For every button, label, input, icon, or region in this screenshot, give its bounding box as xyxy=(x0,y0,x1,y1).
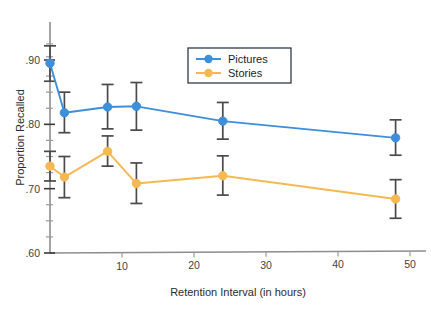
legend-label-pictures: Pictures xyxy=(228,53,268,65)
x-axis-title: Retention Interval (in hours) xyxy=(170,286,306,298)
x-tick-label: 30 xyxy=(260,259,272,271)
retention-interval-line-chart: .60.70.80.901020304050Retention Interval… xyxy=(0,0,431,321)
x-axis-line xyxy=(50,251,426,253)
data-point-stories[interactable] xyxy=(60,173,68,181)
data-point-pictures[interactable] xyxy=(46,59,54,67)
data-point-pictures[interactable] xyxy=(103,103,111,111)
y-axis-title: Proportion Recalled xyxy=(14,89,26,186)
legend-marker-pictures xyxy=(204,55,212,63)
chart-container: .60.70.80.901020304050Retention Interval… xyxy=(0,0,431,321)
legend-label-stories: Stories xyxy=(228,67,263,79)
data-point-stories[interactable] xyxy=(46,162,54,170)
chart-legend: PicturesStories xyxy=(188,48,291,83)
y-tick-label: .70 xyxy=(25,183,40,195)
y-tick-label: .90 xyxy=(25,54,40,66)
data-point-pictures[interactable] xyxy=(132,102,140,110)
y-tick-label: .60 xyxy=(25,247,40,259)
x-tick-label: 40 xyxy=(332,258,344,270)
x-tick-label: 50 xyxy=(404,258,416,270)
data-point-pictures[interactable] xyxy=(219,117,227,125)
x-tick-label: 10 xyxy=(116,260,128,272)
legend-marker-stories xyxy=(204,69,212,77)
data-point-pictures[interactable] xyxy=(60,109,68,117)
x-tick-label: 20 xyxy=(188,259,200,271)
data-point-stories[interactable] xyxy=(219,172,227,180)
data-point-stories[interactable] xyxy=(132,179,140,187)
y-tick-label: .80 xyxy=(25,118,40,130)
data-point-stories[interactable] xyxy=(391,195,399,203)
data-point-pictures[interactable] xyxy=(391,134,399,142)
data-point-stories[interactable] xyxy=(103,147,111,155)
